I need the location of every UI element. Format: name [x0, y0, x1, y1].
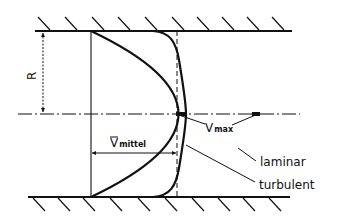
laminar-leader: [238, 148, 256, 161]
hatch-mark: [38, 17, 50, 30]
radius-dimension: R: [25, 33, 43, 112]
hatch-mark: [247, 17, 259, 30]
hatch-mark: [269, 198, 281, 211]
hatch-mark: [165, 198, 177, 211]
turbulent-leader: [186, 145, 255, 182]
hatch-mark: [58, 198, 70, 211]
hatch-mark: [222, 17, 234, 30]
max-velocity-label: Vmax: [205, 121, 234, 135]
hatch-mark: [272, 17, 284, 30]
hatch-mark: [172, 17, 184, 30]
hatch-mark: [65, 17, 77, 30]
pipe-flow-diagram: R Vmittel Vmax laminar turbulent: [0, 0, 337, 224]
max-velocity-annotation: Vmax: [176, 112, 260, 135]
hatch-mark: [138, 198, 150, 211]
turbulent-label: turbulent: [259, 178, 315, 192]
hatch-mark: [218, 198, 230, 211]
mean-velocity-dimension: Vmittel: [92, 136, 176, 153]
mean-velocity-label: Vmittel: [110, 136, 146, 150]
hatch-mark: [118, 17, 130, 30]
hatch-mark: [192, 198, 204, 211]
hatch-mark: [197, 17, 209, 30]
hatch-mark: [92, 17, 104, 30]
hatch-mark: [33, 198, 45, 211]
hatch-mark: [243, 198, 255, 211]
hatch-mark: [83, 198, 95, 211]
lower-pipe-wall: [28, 197, 290, 211]
hatch-mark: [145, 17, 157, 30]
radius-label: R: [25, 72, 39, 80]
upper-pipe-wall: [35, 17, 292, 31]
hatch-mark: [110, 198, 122, 211]
laminar-label: laminar: [260, 155, 306, 169]
